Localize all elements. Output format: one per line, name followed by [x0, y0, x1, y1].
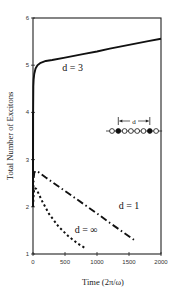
- x-tick-label: 2000: [154, 259, 168, 265]
- y-tick-label: 6: [26, 15, 30, 21]
- open-site-icon: [141, 129, 146, 134]
- arrow-left-icon: [119, 119, 122, 122]
- arrow-right-icon: [146, 119, 149, 122]
- y-tick-label: 5: [26, 62, 30, 68]
- series-layer: [33, 39, 161, 249]
- x-tick-label: 0: [31, 259, 35, 265]
- x-tick-label: 1500: [122, 259, 136, 265]
- open-site-icon: [110, 129, 115, 134]
- y-axis-title: Total Number of Excitons: [5, 92, 15, 180]
- series-line-2: [33, 188, 85, 248]
- x-tick-label: 500: [60, 259, 71, 265]
- open-site-icon: [154, 129, 159, 134]
- open-site-icon: [122, 129, 127, 134]
- distance-label: d: [132, 118, 136, 126]
- y-tick-label: 4: [26, 109, 30, 115]
- y-tick-label: 1: [26, 251, 30, 257]
- x-axis-title: Time (2π/ω): [82, 277, 124, 287]
- chain-inset-diagram: d: [106, 117, 162, 133]
- y-tick-label: 3: [26, 157, 30, 163]
- series-annotation: d = 1: [119, 200, 140, 211]
- series-annotation: d = 3: [62, 62, 83, 73]
- filled-site-icon: [147, 129, 152, 134]
- series-line-0: [33, 39, 161, 207]
- x-tick-label: 1000: [90, 259, 104, 265]
- open-site-icon: [135, 129, 140, 134]
- annotation-layer: d = 3d = 1d = ∞: [62, 62, 139, 235]
- open-site-icon: [129, 129, 134, 134]
- y-tick-label: 2: [26, 204, 30, 210]
- exciton-chart: 1234560500100015002000 d = 3d = 1d = ∞ d…: [0, 0, 178, 295]
- series-annotation: d = ∞: [75, 224, 98, 235]
- filled-site-icon: [116, 129, 121, 134]
